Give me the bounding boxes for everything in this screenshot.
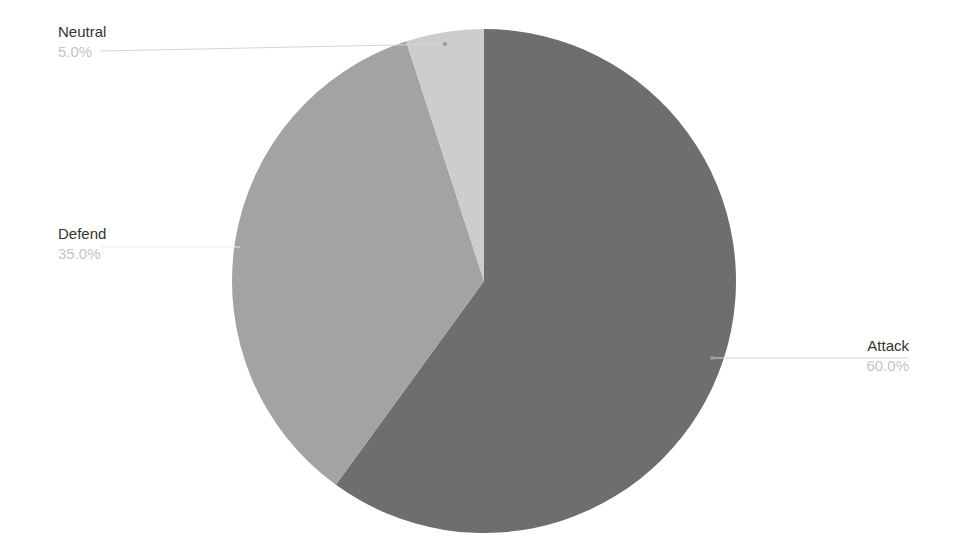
leader-dot-neutral <box>443 42 447 46</box>
slice-label-defend: Defend <box>58 224 106 244</box>
leader-dot-attack <box>710 356 714 360</box>
label-attack: Attack 60.0% <box>866 336 909 376</box>
slice-percent-neutral: 5.0% <box>58 42 106 62</box>
pie-chart <box>0 0 957 558</box>
slice-percent-attack: 60.0% <box>866 356 909 376</box>
pie-slices <box>232 29 736 533</box>
label-defend: Defend 35.0% <box>58 224 106 264</box>
slice-percent-defend: 35.0% <box>58 244 106 264</box>
label-neutral: Neutral 5.0% <box>58 22 106 62</box>
slice-label-attack: Attack <box>866 336 909 356</box>
slice-label-neutral: Neutral <box>58 22 106 42</box>
